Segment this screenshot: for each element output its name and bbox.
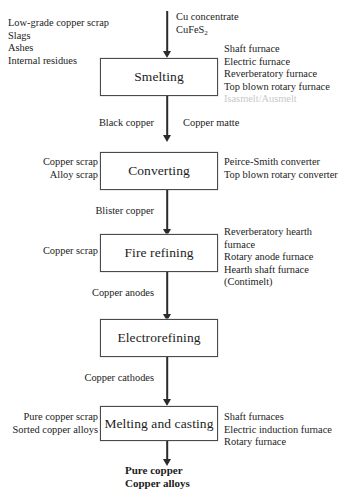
process-box-smelting[interactable]: Smelting [100,58,218,96]
flow-label-copper-cathodes: Copper cathodes [50,372,154,385]
flow-label-blister-copper: Blister copper [50,205,154,218]
flow-label-copper-matte: Copper matte [183,117,293,130]
tech-list-melting-casting: Shaft furnaces Electric induction furnac… [224,411,358,449]
output-label-final-products: Pure copper Copper alloys [125,464,265,491]
tech-list-fire-refining: Reverberatory hearth furnace Rotary anod… [224,226,358,289]
tech-list-converting: Peirce-Smith converter Top blown rotary … [224,156,358,181]
formula-prefix: CuFeS [176,24,204,35]
flow-label-copper-anodes: Copper anodes [50,287,154,300]
formula-subscript: 2 [204,29,208,37]
flow-label-black-copper: Black copper [50,117,154,130]
diagram-canvas: Low-grade copper scrap Slags Ashes Inter… [0,0,358,495]
process-box-melting-and-casting[interactable]: Melting and casting [100,406,218,441]
input-label-cu-concentrate: Cu concentrate [176,11,276,24]
tech-list-smelting-clipped: Isasmelt/Ausmelt [224,93,356,102]
input-label-converting-left: Copper scrap Alloy scrap [0,156,98,181]
input-label-melting-left: Pure copper scrap Sorted copper alloys [0,411,98,436]
process-box-converting[interactable]: Converting [100,152,218,190]
process-box-fire-refining[interactable]: Fire refining [100,234,218,272]
input-label-fire-refining-left: Copper scrap [0,245,98,258]
input-label-cufes2-formula: CuFeS2 [176,24,276,39]
tech-list-smelting: Shaft furnace Electric furnace Reverbera… [224,43,356,93]
process-box-electrorefining[interactable]: Electrorefining [100,319,218,357]
